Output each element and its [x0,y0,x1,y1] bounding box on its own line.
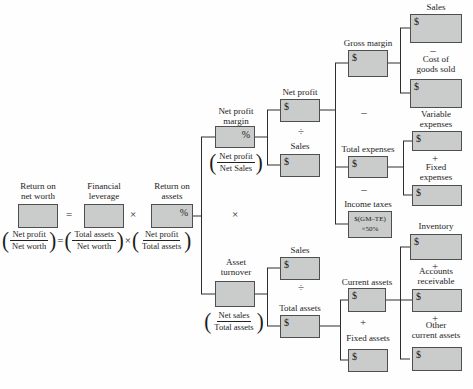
label-total-expenses: Total expenses [336,144,400,154]
operator-minus: – [357,184,371,195]
box-return-on-assets: % [151,204,193,228]
dollar-symbol: $ [416,349,421,360]
label-return-on-assets: Return on assets [142,181,202,201]
dollar-symbol: $ [284,317,289,328]
box-financial-leverage [84,204,124,228]
label-variable-expenses: Variable expenses [408,109,464,129]
box-return-on-net-worth [18,204,58,228]
label-financial-leverage: Financial leverage [74,181,134,201]
operator-multiply: × [125,234,131,246]
label-accounts-receivable: Accounts receivable [406,266,466,286]
dollar-symbol: $ [414,16,419,27]
box-gross-margin: $ [348,50,388,77]
dollar-symbol: $ [284,259,289,270]
box-inventory: $ [410,234,462,260]
fraction-net-profit-over-net-worth: ( Net profit Net worth ) [2,229,56,251]
label-total-assets: Total assets [270,303,330,313]
box-net-profit-margin: % [215,126,255,148]
box-total-assets: $ [280,315,320,338]
operator-multiply: × [228,209,242,220]
label-asset-turnover: Asset turnover [206,257,266,277]
label-gross-margin: Gross margin [338,38,398,48]
label-income-taxes: Income taxes [336,199,400,209]
label-fixed-expenses: Fixed expenses [408,162,464,182]
operator-plus: + [356,317,370,328]
operator-minus: – [357,107,371,118]
income-taxes-formula: $(GM–TE) ×50% [349,212,391,237]
label-cost-of-goods-sold: Cost of goods sold [405,54,467,74]
dupont-analysis-diagram: Return on net worth = Financial leverage… [0,0,473,389]
fraction-net-profit-over-net-sales: ( Net profit Net Sales ) [199,151,273,173]
operator-equals: = [57,234,63,246]
operator-divide: ÷ [294,126,308,137]
dollar-symbol: $ [352,290,357,301]
dollar-symbol: $ [416,133,421,144]
dollar-symbol: $ [414,236,419,247]
fraction-net-profit-over-total-assets: ( Net profit Total assets ) [132,229,191,251]
box-fixed-expenses: $ [412,185,462,206]
box-fixed-assets: $ [348,349,388,372]
box-income-taxes: $(GM–TE) ×50% [348,211,392,238]
box-accounts-receivable: $ [412,289,462,312]
operator-multiply: × [126,209,140,220]
dollar-symbol: $ [284,156,289,167]
box-sales: $ [280,154,320,177]
label-sales: Sales [275,141,325,151]
box-total-expenses: $ [348,156,388,178]
dollar-symbol: $ [414,81,419,92]
box-current-assets: $ [348,288,386,312]
label-inventory: Inventory [408,221,464,231]
dollar-symbol: $ [352,351,357,362]
dollar-symbol: $ [352,52,357,63]
percent-symbol: % [242,129,250,140]
box-other-current-assets: $ [412,347,462,371]
fraction-net-sales-over-total-assets: ( Net sales Total assets ) [194,310,274,332]
box-variable-expenses: $ [412,131,462,151]
operator-divide: ÷ [294,282,308,293]
label-other-current-assets: Other current assets [402,320,470,340]
formula-row: ( Net profit Net worth ) = ( Total asset… [2,229,191,251]
label-return-on-net-worth: Return on net worth [8,181,68,201]
label-sales-top: Sales [405,2,467,12]
box-sales-top: $ [410,14,462,43]
label-current-assets: Current assets [334,277,400,287]
box-asset-turnover [215,281,255,307]
operator-equals: = [62,209,76,220]
percent-symbol: % [180,207,188,218]
dollar-symbol: $ [416,187,421,198]
box-sales-at: $ [280,257,320,280]
label-net-profit: Net profit [275,87,325,97]
label-fixed-assets: Fixed assets [336,333,400,343]
label-sales-at: Sales [275,245,325,255]
box-cost-of-goods-sold: $ [410,79,462,108]
dollar-symbol: $ [284,101,289,112]
fraction-total-assets-over-net-worth: ( Total assets Net worth ) [64,229,123,251]
box-net-profit: $ [280,99,320,122]
dollar-symbol: $ [416,291,421,302]
label-net-profit-margin: Net profit margin [206,106,266,126]
dollar-symbol: $ [352,158,357,169]
